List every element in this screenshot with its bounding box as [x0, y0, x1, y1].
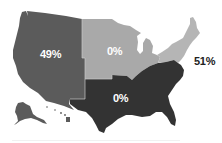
baseline-rule: [12, 140, 180, 141]
us-region-map: [0, 0, 222, 143]
region-west-shape: [13, 11, 85, 110]
hawaii-island: [54, 109, 56, 111]
region-west-alaska-shape: [14, 102, 47, 125]
label-south: 0%: [113, 92, 128, 104]
hawaii-island: [60, 112, 62, 114]
label-midwest: 0%: [107, 45, 122, 57]
hawaii-island: [64, 114, 66, 116]
label-west: 49%: [40, 48, 61, 60]
hawaii-island: [46, 106, 48, 108]
label-northeast: 51%: [194, 55, 215, 67]
region-west: [13, 11, 85, 125]
hawaii-island: [66, 117, 70, 122]
